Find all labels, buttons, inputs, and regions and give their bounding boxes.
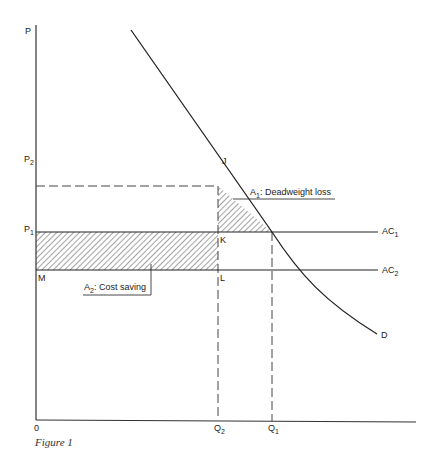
p2-label: P2 bbox=[24, 155, 34, 166]
point-j-label: J bbox=[222, 157, 227, 166]
point-k-label: K bbox=[220, 236, 226, 245]
economics-diagram bbox=[0, 0, 424, 466]
point-l-label: L bbox=[220, 274, 225, 283]
figure-caption: Figure 1 bbox=[35, 436, 73, 448]
a2-label: A2: Cost saving bbox=[84, 283, 146, 294]
area-a2-cost-saving bbox=[36, 232, 218, 270]
ac1-label: AC1 bbox=[382, 227, 398, 238]
origin-label: 0 bbox=[34, 424, 39, 433]
p1-label: P1 bbox=[24, 225, 34, 236]
m-label: M bbox=[38, 274, 46, 283]
q1-label: Q1 bbox=[268, 424, 279, 435]
q2-label: Q2 bbox=[214, 424, 225, 435]
ac2-label: AC2 bbox=[382, 266, 398, 277]
demand-label: D bbox=[381, 331, 388, 340]
x-axis bbox=[36, 420, 416, 422]
a1-label: A1: Deadweight loss bbox=[250, 188, 331, 199]
y-axis-label: P bbox=[25, 27, 31, 36]
demand-curve bbox=[131, 30, 377, 334]
